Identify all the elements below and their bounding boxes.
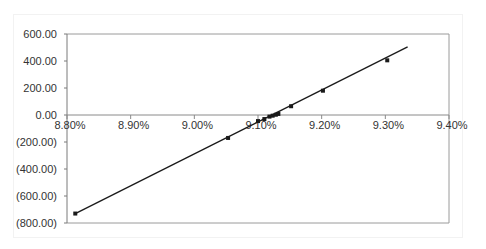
y-tick-label: (200.00) (16, 136, 57, 148)
y-tick-label: (800.00) (16, 217, 57, 229)
data-point (321, 89, 325, 93)
data-point (262, 117, 266, 121)
y-tick-label: (400.00) (16, 163, 57, 175)
x-tick-label: 9.40% (436, 119, 467, 131)
x-tick-label: 9.20% (309, 119, 340, 131)
data-point (256, 119, 260, 123)
data-point (73, 212, 77, 216)
x-tick-label: 9.00% (182, 119, 213, 131)
data-points (73, 58, 389, 215)
x-tick-label: 8.90% (118, 119, 149, 131)
data-point (289, 104, 293, 108)
data-point (226, 136, 230, 140)
y-tick-label: 200.00 (23, 82, 57, 94)
x-tick-label: 8.80% (54, 119, 85, 131)
data-point (385, 58, 389, 62)
x-axis: 8.80%8.90%9.00%9.10%9.20%9.30%9.40% (54, 115, 467, 131)
y-tick-label: 400.00 (23, 55, 57, 67)
scatter-chart: 600.00400.00200.000.00(200.00)(400.00)(6… (0, 0, 486, 249)
data-point (276, 112, 280, 116)
x-tick-label: 9.30% (373, 119, 404, 131)
y-tick-label: (600.00) (16, 190, 57, 202)
y-tick-label: 600.00 (23, 28, 57, 40)
